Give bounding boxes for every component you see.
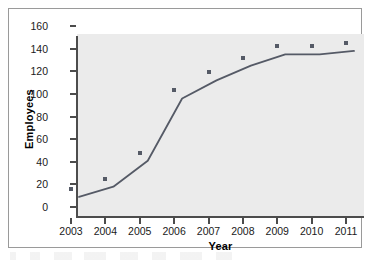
data-point-marker	[103, 177, 107, 181]
x-axis-tick	[104, 218, 106, 224]
plot-area	[77, 34, 364, 217]
y-axis-tick	[70, 48, 76, 50]
chart-figure: 020406080100120140160 200320042005200620…	[0, 0, 370, 262]
y-axis-tick	[70, 116, 76, 118]
data-point-marker	[275, 44, 279, 48]
data-point-marker	[241, 56, 245, 60]
y-axis-tick-label: 0	[8, 202, 48, 212]
data-point-marker	[207, 70, 211, 74]
data-point-marker	[172, 88, 176, 92]
y-axis-tick	[70, 25, 76, 27]
y-axis-line	[76, 36, 78, 218]
y-axis-tick	[70, 161, 76, 163]
x-axis-label: Year	[77, 240, 364, 252]
x-axis-tick	[276, 218, 278, 224]
x-axis-tick	[139, 218, 141, 224]
x-axis-tick	[173, 218, 175, 224]
y-axis-tick	[70, 183, 76, 185]
x-axis-tick	[208, 218, 210, 224]
x-axis-tick	[70, 218, 72, 224]
y-axis-label: Employees	[23, 59, 35, 179]
x-axis-tick	[345, 218, 347, 224]
caption-text-fragment	[10, 252, 260, 260]
data-point-marker	[138, 151, 142, 155]
data-point-marker	[310, 44, 314, 48]
y-axis-tick	[70, 206, 76, 208]
x-axis-tick	[242, 218, 244, 224]
y-axis-tick-label: 140	[8, 44, 48, 54]
x-axis-tick	[311, 218, 313, 224]
y-axis-tick-label: 160	[8, 21, 48, 31]
data-point-marker	[344, 41, 348, 45]
y-axis-tick	[70, 70, 76, 72]
x-axis-line	[76, 216, 364, 218]
x-axis-tick-label: 2011	[326, 226, 366, 236]
data-point-marker	[69, 187, 73, 191]
y-axis-tick	[70, 93, 76, 95]
chart-frame: 020406080100120140160 200320042005200620…	[8, 8, 362, 248]
y-axis-tick	[70, 138, 76, 140]
y-axis-tick-label: 20	[8, 179, 48, 189]
